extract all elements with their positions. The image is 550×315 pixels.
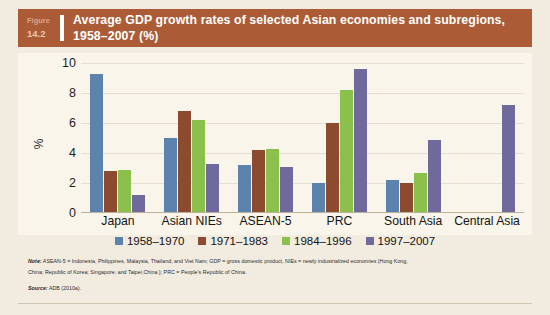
legend-item[interactable]: 1958–1970 <box>115 235 185 247</box>
bar <box>386 180 399 213</box>
chart-legend: 1958–19701971–19831984–19961997–2007 <box>18 235 532 247</box>
bar <box>400 183 413 213</box>
bar-group <box>81 63 155 213</box>
x-tick-label: Japan <box>81 214 155 228</box>
bar <box>206 164 219 214</box>
figure-title: Average GDP growth rates of selected Asi… <box>73 12 532 45</box>
bar <box>132 195 145 213</box>
bar-group <box>376 63 450 213</box>
bar <box>192 120 205 213</box>
bar <box>238 165 251 213</box>
bar <box>354 69 367 213</box>
note-line-2: China; Republic of Korea; Singapore; and… <box>28 267 528 278</box>
note-text-1: ASEAN-5 = Indonesia, Philippines, Malays… <box>42 258 408 264</box>
figure-label: Figure <box>27 16 50 25</box>
bar <box>312 183 325 213</box>
bar <box>414 173 427 214</box>
bar <box>90 74 103 214</box>
legend-item[interactable]: 1971–1983 <box>198 235 268 247</box>
legend-label: 1997–2007 <box>378 235 436 247</box>
y-tick-label: 8 <box>69 86 76 100</box>
source-text: ADB (2010a). <box>48 285 81 291</box>
figure-header: Figure 14.2 Average GDP growth rates of … <box>18 9 532 47</box>
chart-axes <box>81 63 524 213</box>
bar <box>252 150 265 213</box>
x-tick-label: PRC <box>302 214 376 228</box>
bar <box>104 171 117 213</box>
legend-label: 1958–1970 <box>127 235 185 247</box>
bar <box>178 111 191 213</box>
x-axis-line <box>81 212 524 213</box>
figure-number-block: Figure 14.2 <box>18 16 60 41</box>
figure-number: 14.2 <box>27 27 60 41</box>
x-tick-label: South Asia <box>376 214 450 228</box>
x-axis-labels: JapanAsian NIEsASEAN-5PRCSouth AsiaCentr… <box>81 214 524 228</box>
bar <box>280 167 293 214</box>
y-tick-label: 10 <box>62 56 76 70</box>
bar <box>164 138 177 213</box>
figure-notes: Note: ASEAN-5 = Indonesia, Philippines, … <box>28 256 528 291</box>
bottom-rule <box>18 303 532 304</box>
bar-group <box>450 63 524 213</box>
bar <box>118 170 131 214</box>
bar <box>502 105 515 213</box>
bar <box>340 90 353 213</box>
figure-card: Figure 14.2 Average GDP growth rates of … <box>0 0 550 315</box>
source-lead: Source: <box>28 285 48 291</box>
y-tick-label: 6 <box>69 116 76 130</box>
y-tick-label: 0 <box>69 206 76 220</box>
chart-plot-area: % 0246810 JapanAsian NIEsASEAN-5PRCSouth… <box>18 53 532 235</box>
y-tick-label: 4 <box>69 146 76 160</box>
bar-group <box>302 63 376 213</box>
source-line: Source: ADB (2010a). <box>28 285 528 291</box>
bar-groups <box>81 63 524 213</box>
x-tick-label: Central Asia <box>450 214 524 228</box>
bar-group <box>229 63 303 213</box>
note-lead: Note: <box>28 258 42 264</box>
x-tick-label: ASEAN-5 <box>229 214 303 228</box>
bar <box>428 140 441 214</box>
legend-swatch <box>282 237 290 245</box>
bar <box>326 123 339 213</box>
x-tick-label: Asian NIEs <box>155 214 229 228</box>
legend-swatch <box>115 237 123 245</box>
y-tick-label: 2 <box>69 176 76 190</box>
bar-group <box>155 63 229 213</box>
legend-label: 1984–1996 <box>294 235 352 247</box>
y-axis-ticks: 0246810 <box>44 63 80 213</box>
note-line-1: Note: ASEAN-5 = Indonesia, Philippines, … <box>28 256 528 267</box>
legend-label: 1971–1983 <box>210 235 268 247</box>
legend-swatch <box>366 237 374 245</box>
header-divider <box>60 15 64 41</box>
bar <box>266 149 279 214</box>
legend-item[interactable]: 1984–1996 <box>282 235 352 247</box>
legend-swatch <box>198 237 206 245</box>
legend-item[interactable]: 1997–2007 <box>366 235 436 247</box>
